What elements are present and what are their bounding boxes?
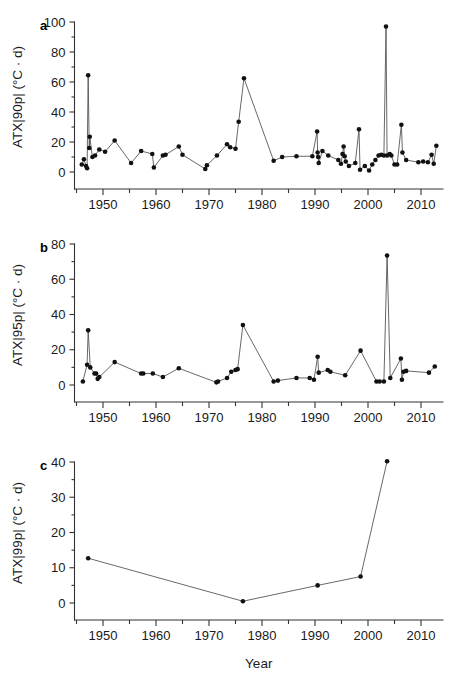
panel-label-b: b [40,240,48,255]
data-point [294,376,299,381]
x-tick-label: 1950 [89,628,118,643]
y-tick-label: 80 [51,237,65,252]
x-tick-label: 1970 [195,628,224,643]
data-point [88,365,93,370]
x-tick-label: 2010 [407,410,436,425]
x-tick-label: 1970 [195,197,224,212]
data-point [93,153,98,158]
panel-c: c0102030401950196019701980199020002010AT… [10,455,443,672]
data-point [310,154,315,159]
data-point [353,161,358,166]
x-tick-label: 1950 [89,410,118,425]
data-point [129,161,134,166]
data-point [280,155,285,160]
data-point [112,138,117,143]
data-point [395,162,400,167]
data-line-a [82,27,437,171]
multi-panel-timeseries-figure: a020406080100195019601970198019902000201… [0,0,459,685]
data-point [94,371,99,376]
data-point [358,348,363,353]
data-point [400,150,405,155]
data-point [363,164,368,169]
data-point [343,159,348,164]
data-point [399,356,404,361]
data-point [421,159,426,164]
data-point [141,371,146,376]
x-tick-label: 1960 [142,628,171,643]
data-point [86,73,91,78]
y-tick-label: 40 [51,455,65,470]
data-point [427,370,432,375]
data-point [312,377,317,382]
data-point [315,355,320,360]
data-point [229,369,234,374]
data-point [315,583,320,588]
data-point [404,158,409,163]
data-point [339,161,344,166]
y-tick-label: 20 [51,342,65,357]
x-tick-label: 2000 [354,628,383,643]
y-tick-label: 20 [51,135,65,150]
data-point [316,161,321,166]
data-point [320,149,325,154]
data-point [404,369,409,374]
y-axis-title-b: ATX|95p| (°C · d) [10,264,25,366]
data-point [80,162,85,167]
x-tick-label: 1950 [89,197,118,212]
data-point [205,163,210,168]
x-tick-label: 2010 [407,197,436,212]
data-point [103,149,108,154]
data-point [315,150,320,155]
x-tick-label: 1960 [142,410,171,425]
data-point [373,158,378,163]
data-point [336,158,341,163]
y-tick-label: 60 [51,272,65,287]
panel-a: a020406080100195019601970198019902000201… [10,15,443,213]
data-point [316,155,321,160]
data-point [150,152,155,157]
y-tick-label: 20 [51,525,65,540]
x-tick-label: 1990 [301,197,330,212]
data-markers-b [81,253,438,385]
data-point [315,129,320,134]
data-point [341,144,346,149]
figure-container: a020406080100195019601970198019902000201… [0,0,459,685]
data-point [328,369,333,374]
x-axis-title: Year [245,656,273,671]
y-tick-label: 0 [58,378,65,393]
data-point [385,253,390,258]
x-tick-label: 1980 [248,197,277,212]
x-tick-label: 1990 [301,628,330,643]
data-point [176,144,181,149]
y-tick-label: 30 [51,490,65,505]
data-point [358,574,363,579]
data-point [367,168,372,173]
x-tick-label: 1980 [248,410,277,425]
data-point [163,152,168,157]
panel-b: b0204060801950196019701980199020002010AT… [10,237,443,426]
data-point [139,149,144,154]
data-point [176,366,181,371]
data-point [242,76,247,81]
data-point [161,375,166,380]
data-point [225,376,230,381]
data-point [307,376,312,381]
y-axis-title-c: ATX|99p| (°C · d) [10,482,25,584]
data-point [431,161,436,166]
data-point [357,127,362,132]
data-point [241,599,246,604]
data-point [342,154,347,159]
data-point [389,153,394,158]
data-point [432,364,437,369]
y-axis-title-a: ATX|90p| (°C · d) [10,46,25,148]
data-point [416,160,421,165]
data-point [86,328,91,333]
data-point [358,167,363,172]
data-point [97,147,102,152]
data-point [347,164,352,169]
x-tick-label: 1990 [301,410,330,425]
data-point [384,24,389,29]
panel-label-c: c [40,458,47,473]
x-tick-label: 1980 [248,628,277,643]
data-point [236,119,241,124]
